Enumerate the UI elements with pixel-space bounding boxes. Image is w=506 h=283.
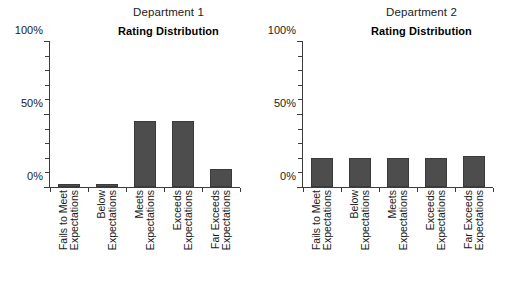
- category-label-line2: Expectations: [360, 190, 371, 250]
- panel-2-department-title: Department 2: [253, 6, 506, 18]
- panel-2-category-label-1: Fails to MeetExpectations: [303, 190, 341, 283]
- panel-2-plot-area: 0%50%100%: [302, 41, 493, 188]
- category-label-line2: Expectations: [145, 190, 156, 250]
- panel-1-bar-3: [134, 121, 156, 187]
- panel-2-y-tick-60: [298, 99, 302, 100]
- panel-2-y-tick-20: [298, 158, 302, 159]
- panel-1-bar-4: [172, 121, 194, 187]
- panel-2-y-tick-label-100: 100%: [268, 24, 296, 36]
- panel-2-y-tick-40: [298, 129, 302, 130]
- panel-department-2: Department 2 Rating Distribution 0%50%10…: [253, 0, 506, 283]
- panel-1-y-tick-0: [44, 187, 49, 188]
- panel-2-y-tick-80: [298, 70, 302, 71]
- panel-1-y-tick-70: [45, 85, 49, 86]
- panel-1-bar-1: [58, 184, 80, 187]
- panel-1-category-labels: Fails to MeetExpectationsBelowExpectatio…: [50, 190, 240, 283]
- panel-1-y-tick-80: [45, 70, 49, 71]
- panel-2-category-label-2: BelowExpectations: [341, 190, 379, 283]
- panel-2-bar-1: [311, 158, 333, 187]
- panel-2-bar-2: [349, 158, 371, 187]
- rating-distribution-figure: Department 1 Rating Distribution 0%50%10…: [0, 0, 506, 283]
- panel-2-bar-4: [425, 158, 447, 187]
- panel-2-y-tick-label-50: 50%: [274, 97, 296, 109]
- panel-1-y-tick-label-0: 0%: [27, 170, 43, 182]
- panel-1-department-title: Department 1: [0, 6, 295, 18]
- panel-2-y-tick-0: [297, 187, 302, 188]
- panel-department-1: Department 1 Rating Distribution 0%50%10…: [0, 0, 253, 283]
- panel-1-y-tick-10: [45, 172, 49, 173]
- category-label-line2: Expectations: [183, 190, 194, 250]
- panel-1-x-axis-line: [49, 187, 240, 188]
- panel-1-y-tick-50: [44, 114, 49, 115]
- category-label-line2: Expectations: [322, 190, 333, 250]
- panel-1-y-tick-label-100: 100%: [15, 24, 43, 36]
- panel-1-category-label-5: Far ExceedsExpectations: [202, 190, 240, 283]
- panel-1-bar-5: [210, 169, 232, 187]
- category-label-line2: Expectations: [69, 190, 80, 250]
- panel-2-category-label-5: Far ExceedsExpectations: [455, 190, 493, 283]
- panel-2-y-tick-30: [298, 143, 302, 144]
- panel-2-y-tick-100: [297, 41, 302, 42]
- panel-1-bar-2: [96, 184, 118, 187]
- panel-2-category-label-4: ExceedsExpectations: [417, 190, 455, 283]
- panel-1-x-tick-5: [240, 188, 241, 192]
- panel-1-y-tick-20: [45, 158, 49, 159]
- panel-2-bars: [303, 41, 493, 187]
- panel-1-chart-title: Rating Distribution: [0, 25, 295, 37]
- category-label-line2: Expectations: [436, 190, 447, 250]
- panel-2-x-axis-line: [302, 187, 493, 188]
- panel-1-y-tick-100: [44, 41, 49, 42]
- panel-1-y-tick-60: [45, 99, 49, 100]
- panel-1-category-label-2: BelowExpectations: [88, 190, 126, 283]
- panel-1-plot-area: 0%50%100%: [49, 41, 240, 188]
- category-label-line2: Expectations: [474, 190, 485, 250]
- panel-1-y-tick-90: [45, 56, 49, 57]
- panel-2-bar-5: [463, 156, 485, 187]
- panel-1-y-tick-40: [45, 129, 49, 130]
- category-label-line2: Expectations: [107, 190, 118, 250]
- panel-2-bar-3: [387, 158, 409, 187]
- panel-2-category-labels: Fails to MeetExpectationsBelowExpectatio…: [303, 190, 493, 283]
- panel-2-y-tick-50: [297, 114, 302, 115]
- panel-2-category-label-3: MeetsExpectations: [379, 190, 417, 283]
- panel-1-category-label-1: Fails to MeetExpectations: [50, 190, 88, 283]
- category-label-line2: Expectations: [398, 190, 409, 250]
- panel-1-category-label-4: ExceedsExpectations: [164, 190, 202, 283]
- panel-2-y-tick-90: [298, 56, 302, 57]
- panel-1-bars: [50, 41, 240, 187]
- panel-2-y-tick-70: [298, 85, 302, 86]
- panel-1-y-tick-30: [45, 143, 49, 144]
- panel-2-y-tick-label-0: 0%: [280, 170, 296, 182]
- category-label-line2: Expectations: [221, 190, 232, 250]
- panel-1-category-label-3: MeetsExpectations: [126, 190, 164, 283]
- panel-2-y-tick-10: [298, 172, 302, 173]
- panel-2-x-tick-5: [493, 188, 494, 192]
- panel-1-y-tick-label-50: 50%: [21, 97, 43, 109]
